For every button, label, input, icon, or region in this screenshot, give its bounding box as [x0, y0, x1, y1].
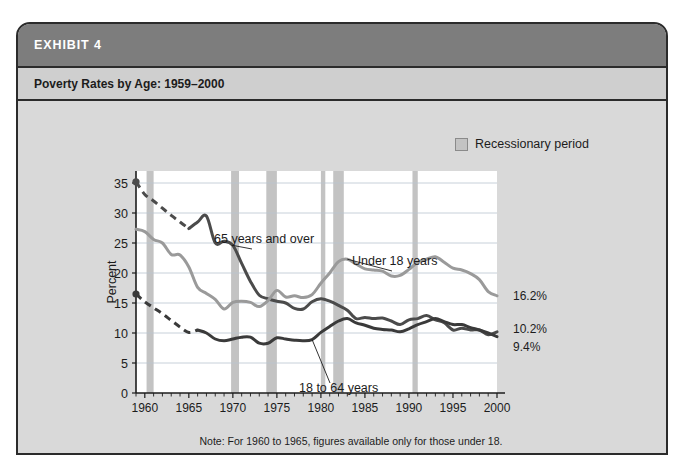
series-label: Under 18 years: [352, 254, 437, 268]
poverty-rates-line-chart: 65 years and overUnder 18 years18 to 64 …: [104, 161, 579, 431]
y-axis-tick-label: 35: [114, 177, 128, 191]
y-axis-tick-label: 0: [121, 387, 128, 401]
y-axis-tick-label: 25: [114, 237, 128, 251]
exhibit-header-bar: EXHIBIT 4: [18, 24, 666, 68]
series-start-marker: [132, 290, 139, 297]
y-axis-tick-label: 5: [121, 357, 128, 371]
end-value-labels: 16.2%10.2%9.4%: [513, 289, 547, 354]
recession-band: [412, 171, 417, 393]
exhibit-number-label: EXHIBIT 4: [34, 38, 102, 52]
end-value-label: 10.2%: [513, 322, 547, 336]
x-axis-tick-label: 2000: [484, 401, 511, 415]
x-axis-tick-label: 1970: [220, 401, 247, 415]
end-value-label: 16.2%: [513, 289, 547, 303]
x-axis-tick-label: 1975: [264, 401, 291, 415]
series-label: 65 years and over: [214, 232, 314, 246]
series-start-marker: [132, 178, 139, 185]
series-label: 18 to 64 years: [299, 381, 378, 395]
y-axis-tick-label: 10: [114, 327, 128, 341]
y-axis-title: Percent: [105, 260, 119, 304]
plot-background: [136, 171, 497, 393]
exhibit-subheader-bar: Poverty Rates by Age: 1959–2000: [18, 68, 666, 101]
end-value-label: 9.4%: [513, 340, 541, 354]
x-axis-tick-label: 1995: [440, 401, 467, 415]
x-axis-tick-label: 1990: [396, 401, 423, 415]
x-axis-tick-label: 1985: [352, 401, 379, 415]
exhibit-card: EXHIBIT 4 Poverty Rates by Age: 1959–200…: [16, 22, 668, 455]
chart-note-text: Note: For 1960 to 1965, figures availabl…: [200, 435, 503, 447]
recession-period-swatch-icon: [455, 138, 468, 151]
chart-legend: Recessionary period: [455, 137, 589, 151]
x-axis-tick-label: 1965: [175, 401, 202, 415]
recession-band: [231, 171, 239, 393]
x-axis-tick-label: 1980: [308, 401, 335, 415]
legend-label-recession: Recessionary period: [475, 137, 589, 151]
recession-band: [333, 171, 344, 393]
recession-band: [266, 171, 277, 393]
exhibit-body: Recessionary period 65 years and overUnd…: [18, 101, 666, 453]
chart-note: Note: For 1960 to 1965, figures availabl…: [104, 431, 579, 455]
recession-band: [147, 171, 154, 393]
exhibit-title: Poverty Rates by Age: 1959–2000: [34, 77, 224, 91]
x-axis-tick-label: 1960: [131, 401, 158, 415]
chart-plot-area: 65 years and overUnder 18 years18 to 64 …: [104, 161, 579, 431]
y-axis-tick-label: 30: [114, 207, 128, 221]
